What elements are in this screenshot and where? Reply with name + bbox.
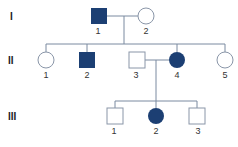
- individual-I-1-affected-male: [91, 8, 107, 24]
- individual-II-3-male: [129, 52, 145, 68]
- individual-number: 5: [222, 70, 227, 80]
- generation-label-3: III: [8, 111, 17, 122]
- individual-II-2-affected-male: [79, 52, 95, 68]
- individual-number: 3: [195, 126, 200, 136]
- individual-number: 2: [153, 126, 158, 136]
- individual-III-1-male: [107, 108, 123, 124]
- generation-label-2: II: [8, 55, 14, 66]
- individual-number: 1: [111, 126, 116, 136]
- individual-number: 1: [95, 26, 100, 36]
- individual-II-4-affected-female: [169, 52, 185, 68]
- individual-number: 3: [133, 70, 138, 80]
- individual-number: 4: [174, 70, 179, 80]
- pedigree-chart: I II III 1 2 1 2 3 4 5 1 2 3: [0, 0, 238, 147]
- individual-II-5-female: [217, 52, 233, 68]
- individual-II-1-female: [38, 52, 54, 68]
- individual-number: 2: [84, 70, 89, 80]
- individual-III-3-male: [189, 108, 205, 124]
- individual-I-2-female: [138, 8, 154, 24]
- individual-number: 1: [43, 70, 48, 80]
- individual-III-2-affected-female: [148, 108, 164, 124]
- generation-label-1: I: [10, 11, 13, 22]
- individual-number: 2: [143, 26, 148, 36]
